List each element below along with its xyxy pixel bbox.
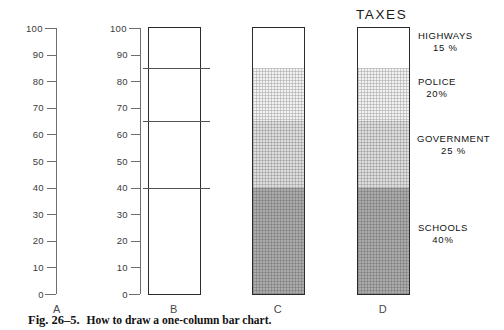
axis-tick-b	[131, 267, 140, 268]
callout-government-label: GOVERNMENT	[417, 133, 490, 145]
axis-tick-label: 10	[13, 263, 44, 272]
axis-tick-a	[45, 28, 56, 29]
axis-tick-b	[131, 55, 140, 56]
axis-tick-label: 40	[13, 183, 44, 192]
axis-tick-label: 60	[97, 130, 128, 139]
chart-title: TAXES	[356, 7, 407, 22]
axis-tick-label: 50	[97, 157, 128, 166]
axis-tick-a	[45, 294, 56, 295]
axis-tick-b	[129, 294, 140, 295]
axis-tick-a	[47, 188, 56, 189]
axis-tick-label: 60	[13, 130, 44, 139]
figure-26-5: 100 90 80 70 60 50 40 30 20 10 0 A 100 9…	[0, 0, 504, 330]
segment-schools-d	[358, 188, 409, 294]
division-line-40	[143, 188, 210, 189]
axis-tick-a	[47, 81, 56, 82]
segment-police-c	[253, 68, 304, 121]
axis-tick-a	[47, 214, 56, 215]
axis-tick-a	[47, 108, 56, 109]
axis-tick-b	[131, 134, 140, 135]
axis-tick-label: 50	[13, 157, 44, 166]
bar-column-d	[357, 27, 410, 295]
bar-column-c	[252, 27, 305, 295]
axis-tick-a	[47, 55, 56, 56]
axis-tick-label: 90	[97, 50, 128, 59]
segment-government-c	[253, 121, 304, 188]
callout-highways-value: 15 %	[418, 42, 473, 54]
axis-tick-label: 100	[13, 24, 43, 33]
axis-tick-a	[47, 161, 56, 162]
axis-tick-label: 40	[97, 183, 128, 192]
axis-tick-label: 70	[97, 103, 128, 112]
callout-schools-label: SCHOOLS	[418, 222, 468, 234]
figure-caption-text: How to draw a one-column bar chart.	[87, 314, 272, 326]
callout-schools: SCHOOLS 40%	[418, 222, 468, 246]
callout-police: POLICE 20%	[418, 76, 456, 100]
axis-tick-b	[131, 161, 140, 162]
axis-tick-label: 70	[13, 103, 44, 112]
axis-tick-label: 90	[13, 50, 44, 59]
axis-line-a	[56, 28, 57, 294]
callout-schools-value: 40%	[418, 234, 468, 246]
axis-tick-b	[129, 28, 140, 29]
axis-tick-b	[131, 214, 140, 215]
callout-highways-label: HIGHWAYS	[418, 30, 473, 42]
segment-highways-d	[358, 28, 409, 68]
axis-tick-label: 0	[13, 290, 44, 299]
segment-schools-c	[253, 188, 304, 294]
figure-number: Fig. 26–5.	[28, 313, 80, 327]
axis-tick-a	[47, 134, 56, 135]
axis-tick-label: 30	[13, 210, 44, 219]
figure-caption: Fig. 26–5. How to draw a one-column bar …	[28, 313, 271, 328]
division-line-65	[143, 121, 210, 122]
callout-government: GOVERNMENT 25 %	[417, 133, 490, 157]
segment-government-d	[358, 121, 409, 188]
division-line-85	[143, 68, 210, 69]
callout-police-value: 20%	[418, 88, 456, 100]
axis-tick-b	[131, 188, 140, 189]
axis-tick-label: 100	[97, 24, 127, 33]
axis-tick-label: 20	[97, 236, 128, 245]
callout-highways: HIGHWAYS 15 %	[418, 30, 473, 54]
callout-police-label: POLICE	[418, 76, 456, 88]
axis-tick-label: 30	[97, 210, 128, 219]
axis-tick-label: 0	[97, 290, 128, 299]
axis-tick-a	[47, 241, 56, 242]
axis-tick-a	[47, 267, 56, 268]
segment-police-d	[358, 68, 409, 121]
callout-government-value: 25 %	[417, 145, 490, 157]
axis-tick-label: 80	[13, 77, 44, 86]
axis-tick-label: 20	[13, 236, 44, 245]
axis-line-b	[140, 28, 141, 294]
axis-tick-label: 80	[97, 77, 128, 86]
axis-tick-b	[131, 108, 140, 109]
axis-tick-label: 10	[97, 263, 128, 272]
panel-letter-d: D	[368, 303, 398, 315]
segment-highways-c	[253, 28, 304, 68]
axis-tick-b	[131, 241, 140, 242]
axis-tick-b	[131, 81, 140, 82]
